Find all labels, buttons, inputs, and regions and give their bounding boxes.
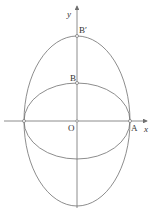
origin-label: O — [68, 123, 75, 133]
point-a-label: A — [131, 123, 138, 133]
ellipse-diagram: y x B′ B O A — [0, 0, 153, 210]
diagram-canvas: y x B′ B O A — [0, 0, 153, 210]
x-axis-label: x — [143, 124, 148, 134]
origin-marker — [76, 120, 78, 122]
point-b-label: B — [70, 73, 76, 83]
point-b-prime-label: B′ — [79, 25, 87, 35]
y-axis-label: y — [66, 9, 71, 19]
point-left-marker — [23, 120, 26, 123]
